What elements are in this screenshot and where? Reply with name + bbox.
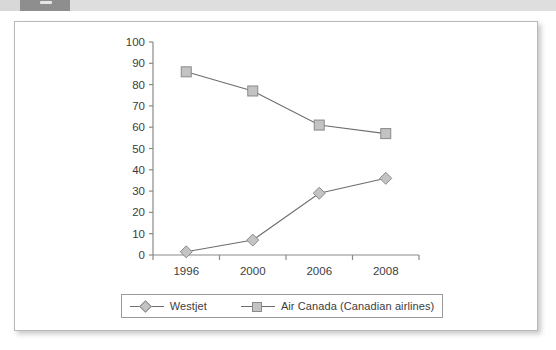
y-tick-label: 100: [126, 36, 145, 48]
line-chart: 01020304050607080901001996200020062008: [15, 22, 539, 332]
chart-legend: Westjet Air Canada (Canadian airlines): [121, 294, 443, 318]
x-tick-label: 1996: [173, 265, 199, 277]
legend-item-air-canada: Air Canada (Canadian airlines): [241, 300, 434, 313]
square-marker-icon: [241, 300, 275, 313]
figure-card: 01020304050607080901001996200020062008 W…: [14, 21, 538, 331]
data-point-square: [248, 86, 258, 96]
chart-plot-area: 01020304050607080901001996200020062008: [15, 22, 539, 332]
y-tick-label: 0: [139, 249, 145, 261]
legend-item-westjet: Westjet: [130, 300, 207, 313]
y-tick-label: 10: [132, 228, 145, 240]
data-point-square: [381, 129, 391, 139]
series-line-westjet: [186, 178, 386, 251]
y-tick-label: 50: [132, 143, 145, 155]
data-point-diamond: [380, 172, 392, 184]
y-tick-label: 90: [132, 57, 145, 69]
y-tick-label: 80: [132, 79, 145, 91]
legend-label-westjet: Westjet: [170, 300, 207, 312]
header-strip-nub: [40, 1, 52, 4]
data-point-diamond: [247, 234, 259, 246]
y-tick-label: 30: [132, 185, 145, 197]
data-point-diamond: [313, 187, 325, 199]
diamond-marker-icon: [130, 300, 164, 313]
data-point-square: [314, 120, 324, 130]
y-tick-label: 60: [132, 121, 145, 133]
data-point-diamond: [180, 246, 192, 258]
y-tick-label: 40: [132, 164, 145, 176]
series-line-air-canada-canadian-airlines: [186, 72, 386, 134]
top-header-strip: [0, 0, 556, 11]
y-tick-label: 20: [132, 206, 145, 218]
x-tick-label: 2006: [306, 265, 332, 277]
header-strip-light-segment: [70, 0, 556, 11]
legend-label-air-canada: Air Canada (Canadian airlines): [281, 300, 434, 312]
data-point-square: [181, 67, 191, 77]
y-tick-label: 70: [132, 100, 145, 112]
x-tick-label: 2008: [373, 265, 399, 277]
x-tick-label: 2000: [240, 265, 266, 277]
